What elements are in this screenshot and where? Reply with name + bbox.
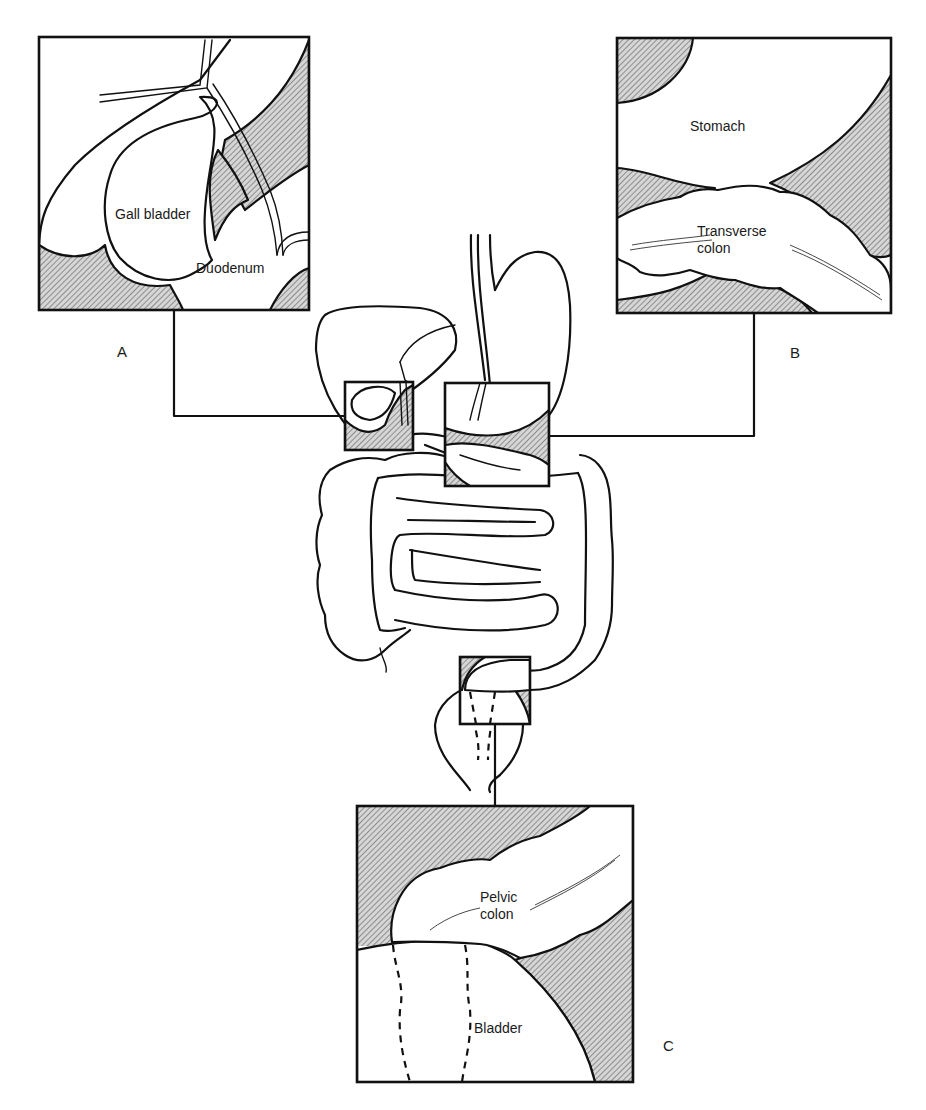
indicator-box-c xyxy=(460,657,530,724)
label-gall-bladder: Gall bladder xyxy=(115,206,191,222)
panel-c: Pelvic colon Bladder xyxy=(357,806,633,1082)
panel-letter-c: C xyxy=(663,1037,674,1054)
indicator-box-b xyxy=(445,383,549,486)
label-stomach: Stomach xyxy=(690,118,745,134)
label-bladder: Bladder xyxy=(474,1020,523,1036)
label-colon-c: colon xyxy=(480,906,513,922)
label-duodenum: Duodenum xyxy=(196,260,265,276)
label-pelvic: Pelvic xyxy=(480,889,517,905)
panel-letter-a: A xyxy=(117,343,127,360)
large-intestine xyxy=(316,453,450,661)
panel-a: Gall bladder Duodenum xyxy=(39,37,309,310)
label-transverse: Transverse xyxy=(697,223,767,239)
anatomy-figure: Gall bladder Duodenum A Stomach Transver… xyxy=(0,0,926,1110)
small-intestine xyxy=(391,498,558,630)
indicator-box-a xyxy=(345,382,413,450)
panel-letter-b: B xyxy=(790,344,800,361)
label-colon-b: colon xyxy=(697,240,730,256)
panel-b: Stomach Transverse colon xyxy=(617,38,891,313)
